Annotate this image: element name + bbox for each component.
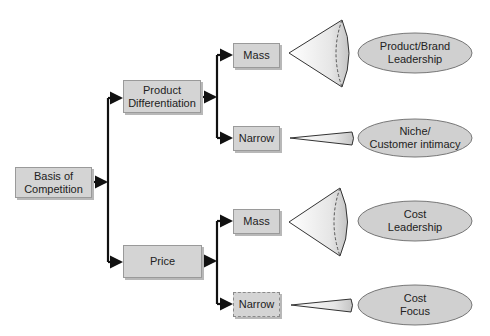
o2-line1: Niche/ — [399, 125, 430, 137]
root-line2: Competition — [24, 183, 83, 195]
wide-cone-bottom — [289, 188, 348, 256]
price-label: Price — [150, 255, 175, 268]
pd-line1: Product — [143, 84, 181, 96]
narrow-cone-bottom — [291, 299, 353, 312]
narrow-cone-top — [290, 132, 354, 145]
pd-line2: Differentiation — [128, 97, 196, 109]
wide-cone-top — [289, 20, 349, 87]
o3-line1: Cost — [404, 208, 427, 220]
outcome-cost-focus: CostFocus — [358, 285, 472, 325]
narrow-bottom-label: Narrow — [239, 298, 274, 311]
mass-box-top: Mass — [233, 43, 280, 68]
o3-line2: Leadership — [388, 221, 442, 233]
price-box: Price — [123, 245, 202, 278]
outcome-product-brand-leadership: Product/BrandLeadership — [358, 33, 472, 73]
o4-line1: Cost — [404, 292, 427, 304]
narrow-top-label: Narrow — [239, 132, 274, 145]
outcome-cost-leadership: CostLeadership — [358, 201, 472, 241]
outcome-niche-customer-intimacy: Niche/Customer intimacy — [358, 119, 472, 157]
o1-line2: Leadership — [388, 53, 442, 65]
o4-line2: Focus — [400, 305, 430, 317]
mass-bottom-label: Mass — [243, 215, 269, 228]
mass-top-label: Mass — [243, 49, 269, 62]
root-line1: Basis of — [34, 170, 73, 182]
o1-line1: Product/Brand — [380, 40, 450, 52]
narrow-box-bottom: Narrow — [233, 292, 280, 317]
o2-line2: Customer intimacy — [369, 138, 460, 150]
narrow-box-top: Narrow — [233, 126, 280, 151]
basis-of-competition-box: Basis ofCompetition — [15, 167, 92, 198]
mass-box-bottom: Mass — [233, 209, 280, 234]
product-differentiation-box: ProductDifferentiation — [123, 80, 201, 113]
